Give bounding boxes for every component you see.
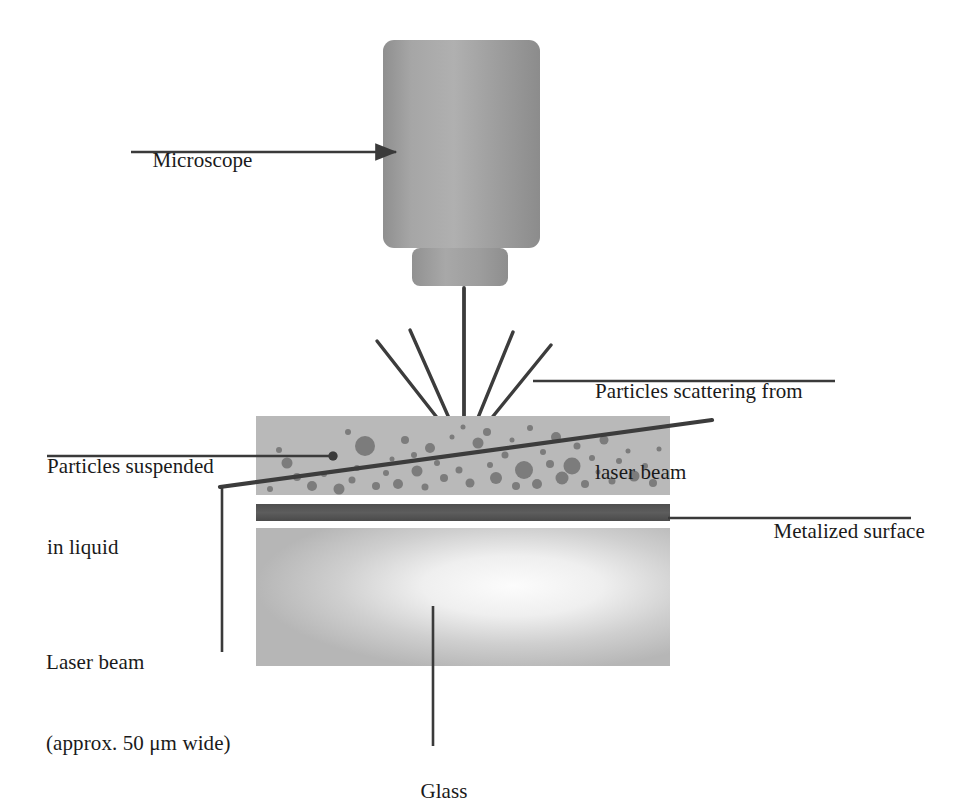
particle (383, 470, 389, 476)
microscope-body (383, 40, 540, 248)
particle (564, 458, 581, 475)
particle (487, 462, 493, 468)
label-laser-line-2: (approx. 50 μm wide) (46, 730, 231, 757)
particle (527, 425, 533, 431)
label-scattering-line-2: laser beam (595, 459, 803, 486)
particle (440, 474, 448, 482)
particle (450, 435, 455, 440)
particle (556, 472, 569, 485)
label-microscope: Microscope (131, 120, 253, 201)
particle (473, 438, 484, 449)
label-laser-line-1: Laser beam (46, 649, 231, 676)
particle (349, 477, 356, 484)
glass-block (256, 528, 670, 666)
particle (483, 428, 491, 436)
particle (456, 467, 463, 474)
particle (546, 460, 554, 468)
particle (276, 447, 282, 453)
microscope-objective-barrel (412, 248, 508, 286)
suspended-leader-endpoint-dot (328, 451, 337, 460)
particle (574, 443, 581, 450)
label-metalized-text: Metalized surface (773, 519, 925, 543)
label-laser-beam: Laser beam (approx. 50 μm wide) (46, 595, 231, 803)
label-microscope-text: Microscope (152, 148, 252, 172)
particle (267, 486, 273, 492)
particle (422, 484, 429, 491)
particle (512, 482, 520, 490)
particle (334, 484, 345, 495)
label-suspended-line-1: Particles suspended (47, 453, 214, 480)
label-particles-suspended: Particles suspended in liquid (47, 399, 214, 615)
particle (307, 481, 317, 491)
label-scattering-line-1: Particles scattering from (595, 378, 803, 405)
particle (540, 449, 546, 455)
particle (393, 479, 403, 489)
particle (412, 466, 423, 477)
label-metalized-surface: Metalized surface (752, 491, 925, 572)
microscope-assembly (383, 40, 540, 286)
label-glass-text: Glass (420, 779, 467, 803)
particle (502, 452, 509, 459)
particle (490, 472, 502, 484)
particle (345, 429, 351, 435)
label-suspended-line-2: in liquid (47, 534, 214, 561)
particle (515, 461, 533, 479)
particle (372, 482, 380, 490)
particle (466, 479, 475, 488)
particle (510, 438, 515, 443)
particle (355, 436, 375, 456)
particle (532, 479, 542, 489)
particle (282, 458, 293, 469)
particle (581, 480, 589, 488)
particle (425, 443, 435, 453)
particle (411, 452, 417, 458)
particle (461, 425, 466, 430)
particle (434, 460, 440, 466)
particle (401, 436, 409, 444)
diagram-canvas: Microscope Particles scattering from las… (0, 0, 955, 803)
label-glass: Glass (399, 751, 468, 803)
particle (390, 457, 395, 462)
